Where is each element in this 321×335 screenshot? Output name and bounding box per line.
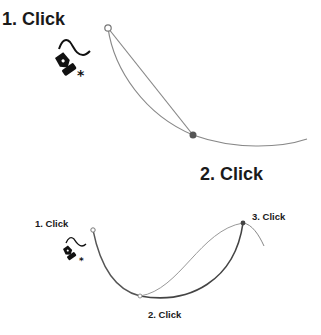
handle-line <box>108 28 193 135</box>
freeform-pen-tool-icon-small: * <box>62 238 86 266</box>
anchor-point-3 <box>241 221 246 226</box>
bottom-diagram: 1. Click * 3. Click 2. Click <box>35 211 286 320</box>
asterisk-icon: * <box>77 67 85 83</box>
asterisk-icon-small: * <box>79 256 84 266</box>
handle-curve <box>140 223 243 296</box>
curve-segment-2 <box>193 135 307 146</box>
freeform-pen-tool-icon: * <box>53 40 90 83</box>
anchor-point-1 <box>91 228 95 232</box>
label-second-click-bottom: 2. Click <box>148 309 182 320</box>
label-first-click-bottom: 1. Click <box>35 218 69 229</box>
curve-segment-2 <box>140 223 243 298</box>
anchor-point-1 <box>105 25 111 31</box>
anchor-point-2 <box>190 132 197 139</box>
curve-extension <box>243 223 264 246</box>
pen-tool-diagram: 1. Click * 2. Click 1. Click <box>0 0 321 335</box>
curve-segment-1 <box>93 230 140 296</box>
label-third-click: 3. Click <box>252 211 286 222</box>
top-diagram: 1. Click * 2. Click <box>2 9 307 184</box>
anchor-point-2 <box>138 294 142 298</box>
label-first-click-top: 1. Click <box>2 9 66 29</box>
label-second-click-top: 2. Click <box>200 164 264 184</box>
